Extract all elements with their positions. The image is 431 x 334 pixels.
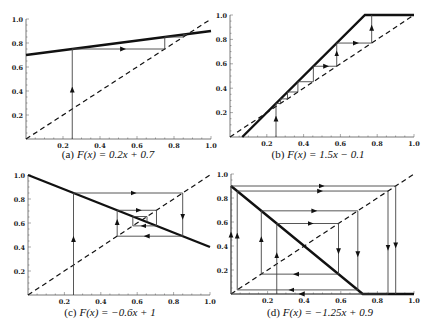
y-tick-label: 0.4 — [216, 85, 228, 93]
cobweb-path — [276, 15, 372, 137]
x-tick-label: 0.8 — [168, 142, 180, 150]
panel-d-chart: 0.20.40.60.81.00.20.40.60.81.0 — [217, 171, 420, 306]
cobweb-figure: 0.20.40.60.81.00.20.40.60.81.0 0.20.40.6… — [0, 0, 431, 334]
x-tick-label: 0.2 — [261, 140, 272, 148]
x-tick-label: 0.4 — [299, 297, 311, 305]
y-tick-label: 0.2 — [14, 268, 25, 276]
x-tick-label: 0.8 — [372, 297, 384, 305]
y-tick-label: 0.8 — [217, 195, 229, 203]
caption-b: (b)F(x) = 1.5x − 0.1 — [272, 148, 365, 161]
panel-b-chart: 0.20.40.60.81.00.20.40.60.81.0 — [216, 12, 420, 149]
y-tick-label: 1.0 — [12, 16, 24, 24]
y-tick-label: 0.2 — [12, 112, 23, 120]
x-tick-label: 0.2 — [262, 297, 273, 305]
x-tick-label: 0.4 — [298, 140, 310, 148]
cobweb-path — [72, 35, 187, 139]
x-tick-label: 0.8 — [168, 298, 180, 306]
diagonal-line — [230, 15, 414, 137]
y-tick-label: 0.8 — [14, 196, 26, 204]
function-curve — [242, 15, 414, 137]
x-tick-label: 1.0 — [408, 140, 420, 148]
diagonal-line — [231, 174, 414, 294]
panel-a-chart: 0.20.40.60.81.00.20.40.60.81.0 — [12, 16, 217, 151]
caption-d: (d)F(x) = −1.25x + 0.9 — [267, 306, 373, 319]
y-tick-label: 1.0 — [14, 172, 26, 180]
x-tick-label: 0.6 — [132, 298, 144, 306]
panel-c-chart: 0.20.40.60.81.00.20.40.60.81.0 — [14, 172, 216, 307]
x-tick-label: 0.8 — [372, 140, 384, 148]
y-tick-label: 0.6 — [216, 60, 228, 68]
x-tick-label: 0.2 — [59, 298, 70, 306]
caption-c: (c)F(x) = −0.6x + 1 — [64, 306, 156, 319]
x-tick-label: 1.0 — [204, 298, 216, 306]
y-tick-label: 0.8 — [216, 36, 228, 44]
y-tick-label: 0.2 — [217, 267, 228, 275]
x-tick-label: 0.6 — [335, 297, 347, 305]
cobweb-path — [74, 193, 183, 295]
function-curve — [231, 186, 414, 294]
y-tick-label: 1.0 — [217, 171, 229, 179]
y-tick-label: 0.2 — [216, 109, 227, 117]
y-tick-label: 0.6 — [12, 64, 24, 72]
y-tick-label: 1.0 — [216, 12, 228, 20]
y-tick-label: 0.4 — [217, 243, 229, 251]
x-tick-label: 0.4 — [95, 298, 107, 306]
y-tick-label: 0.6 — [217, 219, 229, 227]
x-tick-label: 0.6 — [335, 140, 347, 148]
y-tick-label: 0.8 — [12, 40, 24, 48]
y-tick-label: 0.4 — [14, 244, 26, 252]
y-tick-label: 0.4 — [12, 88, 24, 96]
x-tick-label: 1.0 — [408, 297, 420, 305]
caption-a: (a)F(x) = 0.2x + 0.7 — [62, 148, 155, 161]
x-tick-label: 1.0 — [205, 142, 217, 150]
y-tick-label: 0.6 — [14, 220, 26, 228]
